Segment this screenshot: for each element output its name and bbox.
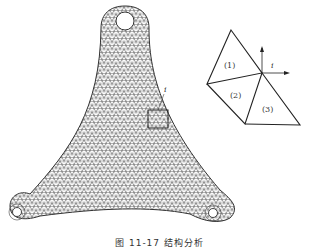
bottom-right-hole	[209, 209, 218, 218]
element-3-label: (3)	[262, 105, 273, 114]
element-2-label: (2)	[230, 91, 241, 100]
element-1-label: (1)	[224, 61, 235, 70]
bottom-left-hole	[13, 208, 22, 217]
zoom-box-label: i	[164, 85, 167, 94]
element-inset	[207, 30, 300, 125]
top-hole	[116, 12, 134, 30]
node-i-label: i	[271, 61, 274, 70]
figure-caption: 图 11-17 结构分析	[0, 236, 319, 249]
